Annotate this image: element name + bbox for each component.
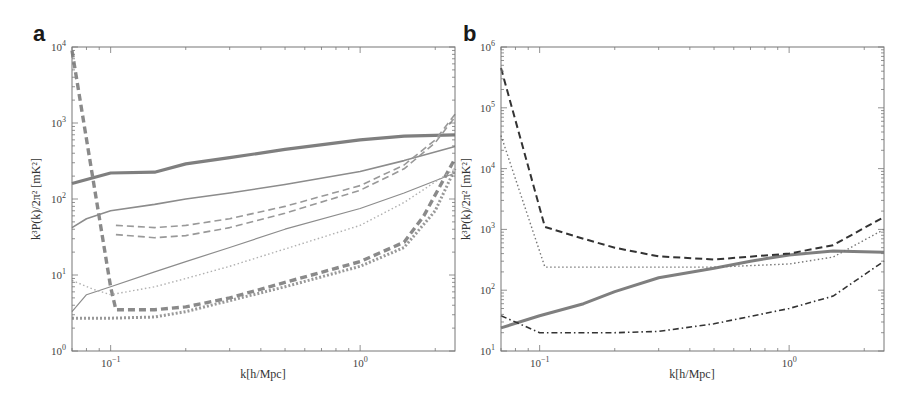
tick-label: 103 [480,221,495,235]
tick-label: 102 [480,282,495,296]
tick-label: 10−1 [101,355,121,369]
panel-b: b 10−1100101102103104105106 k[h/Mpc] k³P… [459,21,884,381]
panel-a: a 10−1100100101102103104 k[h/Mpc] k³P(k)… [29,21,455,381]
tick-label: 100 [353,355,368,369]
tick-label: 100 [51,343,66,357]
figure: a 10−1100100101102103104 k[h/Mpc] k³P(k)… [0,0,918,399]
tick-label: 106 [480,39,495,53]
panel-a-ylabel: k³P(k)/2π² [mK²] [29,158,43,240]
tick-label: 105 [480,100,495,114]
panel-a-lines [72,51,455,319]
series-thin-dashed-upper [116,114,455,227]
panel-b-frame [501,47,884,351]
tick-label: 104 [480,161,495,175]
tick-label: 10−1 [530,355,550,369]
panel-b-letter: b [463,21,476,46]
panel-b-ylabel: k³P(k)/2π² [mK²] [459,158,473,240]
series-thick-dashed [72,51,455,310]
tick-label: 103 [51,115,66,129]
tick-label: 101 [51,267,66,281]
panel-a-frame [72,47,455,351]
tick-label: 102 [51,191,66,205]
tick-label: 104 [51,39,66,53]
panel-b-lines [501,68,884,333]
panel-b-xlabel: k[h/Mpc] [669,367,714,381]
tick-label: 101 [480,343,495,357]
panel-a-xlabel: k[h/Mpc] [240,367,285,381]
series-thin-solid-upper [72,147,455,228]
tick-label: 100 [782,355,797,369]
panel-b-ticks: 10−1100101102103104105106 [480,39,884,369]
series-black-dashed [501,68,884,259]
series-thick-solid [501,251,884,328]
panel-a-ticks: 10−1100100101102103104 [51,39,455,369]
series-thick-solid [72,135,455,184]
panel-a-letter: a [33,21,46,46]
